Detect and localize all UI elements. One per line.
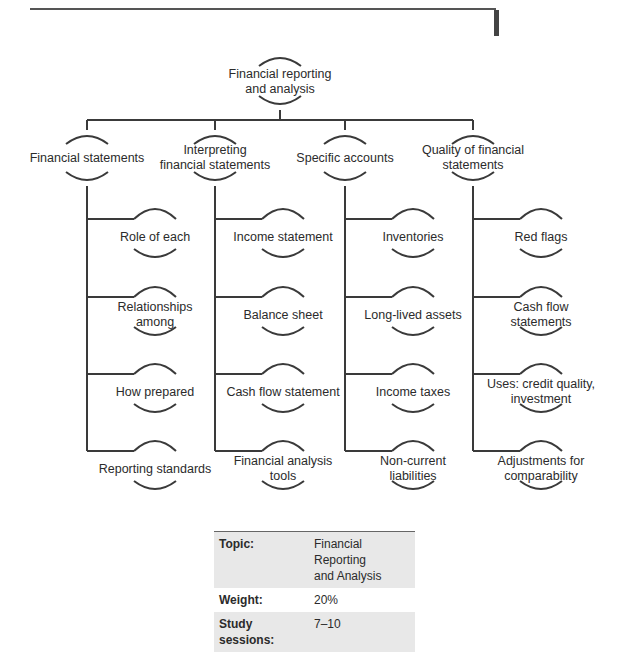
child-node: Relationshipsamong <box>117 300 192 330</box>
child-node: Income taxes <box>376 385 450 400</box>
child-node: Role of each <box>120 230 190 245</box>
branch-node-4-line2: statements <box>442 158 503 172</box>
child-node-line1: Non-current <box>380 454 446 468</box>
topic-value: Financial Reportingand Analysis <box>309 532 415 589</box>
topic-value-line1: Financial Reporting <box>314 537 366 567</box>
branch-node-2: Interpretingfinancial statements <box>160 143 270 173</box>
topic-key: Topic: <box>214 532 309 589</box>
weight-key: Weight: <box>214 588 309 612</box>
child-node-line1: How prepared <box>116 385 195 399</box>
weight-row: Weight: 20% <box>214 588 415 612</box>
topic-value-line2: and Analysis <box>314 569 381 583</box>
topic-info-table: Topic: Financial Reportingand Analysis W… <box>214 531 415 652</box>
child-node: Cash flowstatements <box>510 300 571 330</box>
child-node-line2: comparability <box>504 469 578 483</box>
child-node-line1: Relationships <box>117 300 192 314</box>
child-node-line1: Inventories <box>382 230 443 244</box>
child-node-line1: Income statement <box>233 230 332 244</box>
child-node: Income statement <box>233 230 332 245</box>
child-node-line1: Reporting standards <box>99 462 212 476</box>
branch-node-2-line2: financial statements <box>160 158 270 172</box>
root-node-line2: and analysis <box>245 82 315 96</box>
child-node-line2: among <box>136 315 174 329</box>
root-node-line1: Financial reporting <box>229 67 332 81</box>
branch-node-2-line1: Interpreting <box>183 143 246 157</box>
child-node: Inventories <box>382 230 443 245</box>
child-node-line1: Long-lived assets <box>364 308 461 322</box>
child-node-line1: Role of each <box>120 230 190 244</box>
child-node: Long-lived assets <box>364 308 461 323</box>
child-node-line2: liabilities <box>389 469 436 483</box>
branch-node-3-line1: Specific accounts <box>296 151 393 165</box>
child-node-line2: statements <box>510 315 571 329</box>
child-node-line1: Cash flow statement <box>226 385 339 399</box>
child-node-line1: Uses: credit quality, <box>487 377 595 391</box>
child-node-line2: investment <box>511 392 571 406</box>
sessions-row: Study sessions: 7–10 <box>214 612 415 652</box>
child-node: Reporting standards <box>99 462 212 477</box>
child-node: Adjustments forcomparability <box>498 454 585 484</box>
root-node: Financial reportingand analysis <box>229 67 332 97</box>
branch-node-4-line1: Quality of financial <box>422 143 524 157</box>
branch-node-3: Specific accounts <box>296 151 393 166</box>
child-node: How prepared <box>116 385 195 400</box>
child-node-line1: Cash flow <box>514 300 569 314</box>
child-node-line1: Adjustments for <box>498 454 585 468</box>
child-node: Red flags <box>515 230 568 245</box>
child-node-line1: Red flags <box>515 230 568 244</box>
child-node: Balance sheet <box>243 308 322 323</box>
child-node-line1: Financial analysis <box>234 454 333 468</box>
child-node-line1: Income taxes <box>376 385 450 399</box>
child-node: Cash flow statement <box>226 385 339 400</box>
child-node-line2: tools <box>270 469 296 483</box>
weight-value: 20% <box>309 588 415 612</box>
branch-node-1-line1: Financial statements <box>30 151 145 165</box>
sessions-value: 7–10 <box>309 612 415 652</box>
sessions-key: Study sessions: <box>214 612 309 652</box>
branch-node-4: Quality of financialstatements <box>422 143 524 173</box>
child-node: Financial analysistools <box>234 454 333 484</box>
child-node: Uses: credit quality,investment <box>487 377 595 407</box>
child-node: Non-currentliabilities <box>380 454 446 484</box>
branch-node-1: Financial statements <box>30 151 145 166</box>
topic-row: Topic: Financial Reportingand Analysis <box>214 532 415 589</box>
child-node-line1: Balance sheet <box>243 308 322 322</box>
